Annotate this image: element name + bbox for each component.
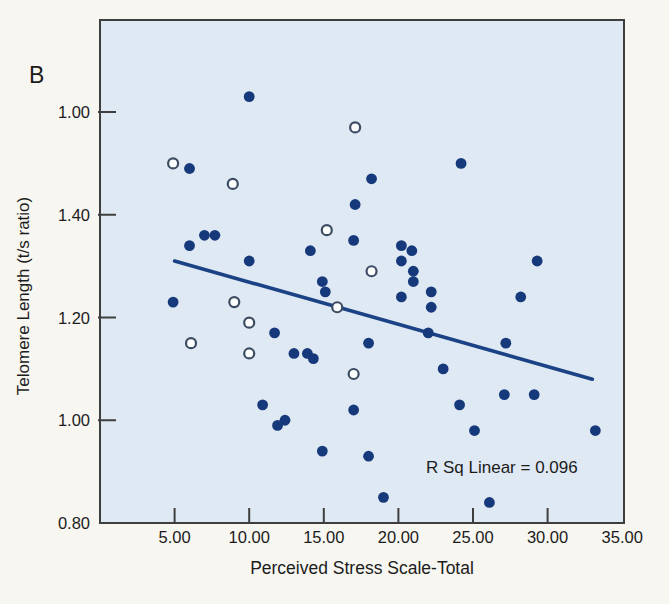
data-point-filled <box>244 91 255 102</box>
y-axis-title: Telomere Length (t/s ratio) <box>14 166 34 426</box>
data-point-filled <box>408 266 419 277</box>
data-point-filled <box>269 328 280 339</box>
data-point-filled <box>515 292 526 303</box>
data-point-filled <box>469 425 480 436</box>
data-point-filled <box>500 338 511 349</box>
data-point-filled <box>529 389 540 400</box>
r-squared-annotation: R Sq Linear = 0.096 <box>426 458 578 478</box>
data-point-open <box>367 266 377 276</box>
x-tick-label: 30.00 <box>516 528 580 546</box>
data-point-filled <box>396 240 407 251</box>
data-point-filled <box>199 230 210 241</box>
y-tick-label: 0.80 <box>34 514 90 532</box>
data-point-filled <box>289 348 300 359</box>
data-point-filled <box>305 245 316 256</box>
data-point-filled <box>317 446 328 457</box>
data-point-open <box>244 348 254 358</box>
data-point-filled <box>423 328 434 339</box>
data-point-filled <box>363 338 374 349</box>
data-point-open <box>186 338 196 348</box>
data-point-filled <box>438 363 449 374</box>
data-point-filled <box>406 245 417 256</box>
y-tick-label: 1.20 <box>34 309 90 327</box>
data-point-filled <box>499 389 510 400</box>
data-point-filled <box>209 230 220 241</box>
data-point-filled <box>532 256 543 267</box>
y-tick-label: 1.00 <box>34 103 90 121</box>
y-tick-label: 1.00 <box>34 411 90 429</box>
x-tick-label: 35.00 <box>590 528 654 546</box>
scatter-chart <box>0 0 669 604</box>
data-point-filled <box>244 256 255 267</box>
data-point-filled <box>454 399 465 410</box>
x-axis-title: Perceived Stress Scale-Total <box>100 558 624 579</box>
data-point-filled <box>350 199 361 210</box>
data-point-filled <box>348 235 359 246</box>
data-point-filled <box>320 286 331 297</box>
data-point-filled <box>426 286 437 297</box>
data-point-filled <box>317 276 328 287</box>
data-point-filled <box>272 420 283 431</box>
data-point-open <box>332 302 342 312</box>
figure-panel: B Telomere Length (t/s ratio) Perceived … <box>0 0 669 604</box>
data-point-open <box>322 225 332 235</box>
y-tick-label: 1.40 <box>34 206 90 224</box>
data-point-filled <box>378 492 389 503</box>
data-point-filled <box>363 451 374 462</box>
data-point-filled <box>366 173 377 184</box>
data-point-filled <box>348 405 359 416</box>
data-point-filled <box>408 276 419 287</box>
data-point-open <box>229 297 239 307</box>
x-tick-label: 5.00 <box>143 528 207 546</box>
data-point-filled <box>590 425 601 436</box>
data-point-open <box>349 369 359 379</box>
x-tick-label: 15.00 <box>292 528 356 546</box>
data-point-filled <box>426 302 437 313</box>
data-point-open <box>244 318 254 328</box>
data-point-filled <box>396 256 407 267</box>
x-tick-label: 20.00 <box>366 528 430 546</box>
data-point-filled <box>396 292 407 303</box>
data-point-filled <box>184 163 195 174</box>
data-point-filled <box>168 297 179 308</box>
x-tick-label: 10.00 <box>217 528 281 546</box>
data-point-open <box>168 158 178 168</box>
data-point-filled <box>456 158 467 169</box>
data-point-filled <box>484 497 495 508</box>
data-point-open <box>350 122 360 132</box>
panel-label: B <box>29 62 44 89</box>
data-point-filled <box>184 240 195 251</box>
data-point-filled <box>257 399 268 410</box>
data-point-open <box>228 179 238 189</box>
x-tick-label: 25.00 <box>441 528 505 546</box>
plot-background <box>100 20 624 523</box>
data-point-filled <box>308 353 319 364</box>
